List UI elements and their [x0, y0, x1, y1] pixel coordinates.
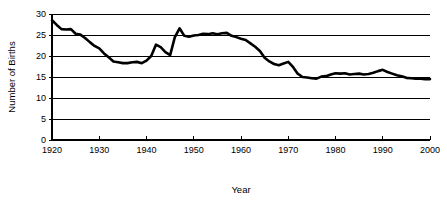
y-tick-label-0: 0: [41, 135, 46, 145]
x-axis-title: Year: [231, 184, 250, 195]
chart-figure: 0510152025301920193019401950196019701980…: [0, 0, 447, 203]
x-tick-label-1930: 1930: [89, 145, 109, 155]
y-tick-label-10: 10: [36, 93, 46, 103]
y-tick-label-30: 30: [36, 9, 46, 19]
births-line-chart: 0510152025301920193019401950196019701980…: [0, 0, 447, 203]
x-tick-label-1970: 1970: [278, 145, 298, 155]
y-tick-label-20: 20: [36, 51, 46, 61]
x-tick-label-1940: 1940: [136, 145, 156, 155]
y-tick-label-5: 5: [41, 114, 46, 124]
y-tick-label-25: 25: [36, 30, 46, 40]
y-tick-label-15: 15: [36, 72, 46, 82]
x-tick-label-2000: 2000: [420, 145, 440, 155]
x-tick-label-1950: 1950: [184, 145, 204, 155]
y-gridlines: [52, 14, 430, 119]
x-tick-label-1990: 1990: [373, 145, 393, 155]
x-tick-label-1920: 1920: [42, 145, 62, 155]
x-ticks: 192019301940195019601970198019902000: [42, 136, 440, 155]
x-tick-label-1980: 1980: [325, 145, 345, 155]
y-axis-title: Number of Births: [6, 41, 17, 113]
y-ticks: 051015202530: [36, 9, 52, 145]
x-tick-label-1960: 1960: [231, 145, 251, 155]
data-line-number-of-births: [52, 20, 430, 79]
